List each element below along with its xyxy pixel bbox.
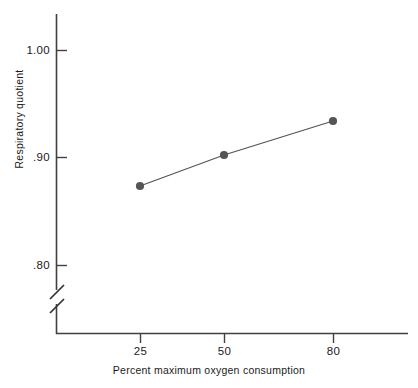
x-tick-label-25: 25	[120, 345, 161, 357]
chart-figure: 1.00 .90 .80 25 50 80 Percent maximum ox…	[0, 0, 418, 388]
y-tick-label-0.80: .80	[2, 259, 50, 271]
x-tick-label-50: 50	[204, 345, 245, 357]
data-point-marker	[220, 151, 228, 159]
x-axis-title: Percent maximum oxygen consumption	[0, 364, 418, 376]
x-tick-label-80: 80	[313, 345, 354, 357]
data-point-marker	[136, 182, 144, 190]
data-point-marker	[329, 117, 337, 125]
chart-plot-area	[0, 0, 418, 388]
data-series-line	[140, 121, 333, 186]
y-axis-title-container: Respiratory quotient	[9, 29, 27, 209]
y-axis-title: Respiratory quotient	[13, 70, 25, 169]
